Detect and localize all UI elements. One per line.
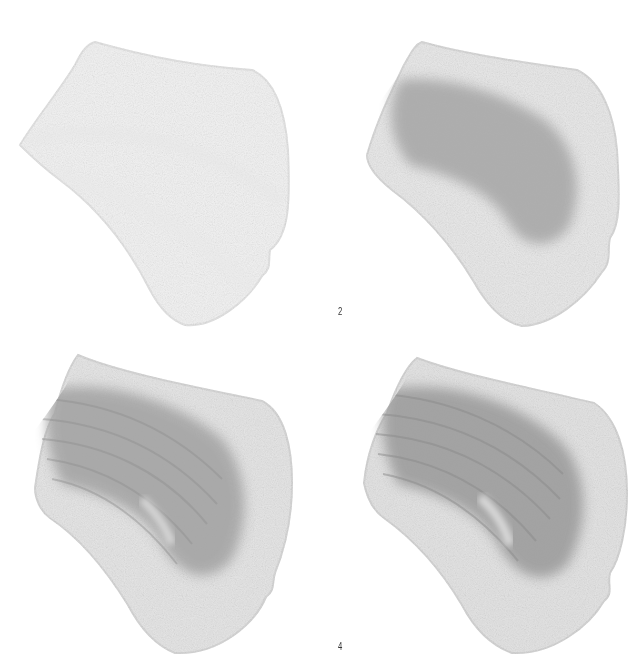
step-number-label: 4 — [338, 640, 342, 652]
shading-step-2-panel: 2 — [322, 0, 644, 333]
shading-step-3-panel — [0, 333, 322, 666]
petal-drawing-step-4 — [322, 333, 644, 666]
shading-step-4-panel: 4 — [322, 333, 644, 666]
petal-drawing-step-2 — [322, 0, 644, 333]
shading-step-1-panel — [0, 0, 322, 333]
step-number-label: 2 — [338, 305, 342, 317]
petal-drawing-step-3 — [0, 333, 322, 666]
petal-drawing-step-1 — [0, 0, 322, 333]
